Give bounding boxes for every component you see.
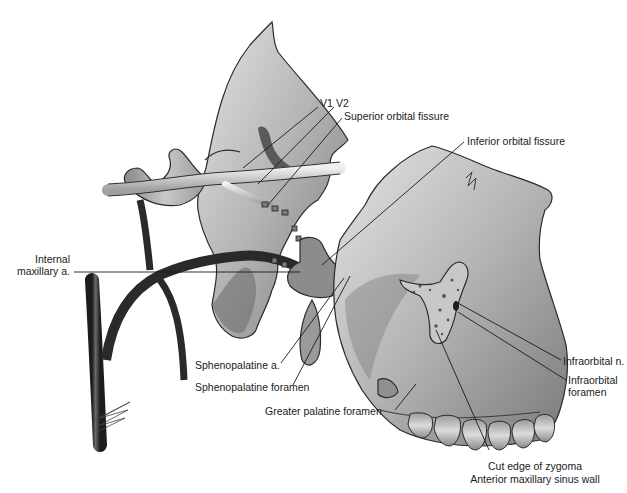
label-internal-maxillary-line1: Internal [0,253,70,265]
label-cut-edge-zygoma: Cut edge of zygoma [455,460,615,472]
label-sphenopalatine-foramen: Sphenopalatine foramen [195,381,309,393]
label-infraorbital-nerve: Infraorbital n. [563,355,624,367]
maxilla-skull [334,146,568,446]
label-v1: V1 [320,97,333,109]
label-sphenopalatine-artery: Sphenopalatine a. [195,359,280,371]
label-v2: V2 [336,97,349,109]
label-infraorbital-foramen: Infraorbital foramen [568,374,618,398]
label-infraorbital-foramen-line2: foramen [568,386,618,398]
anatomy-illustration [0,0,627,493]
label-inferior-orbital-fissure: Inferior orbital fissure [467,135,565,147]
label-anterior-maxillary-sinus-wall: Anterior maxillary sinus wall [455,473,615,485]
label-greater-palatine-foramen: Greater palatine foramen [265,405,382,417]
label-superior-orbital-fissure: Superior orbital fissure [344,110,449,122]
label-internal-maxillary-line2: maxillary a. [0,265,70,277]
label-internal-maxillary-artery: Internal maxillary a. [0,253,70,277]
label-infraorbital-foramen-line1: Infraorbital [568,374,618,386]
